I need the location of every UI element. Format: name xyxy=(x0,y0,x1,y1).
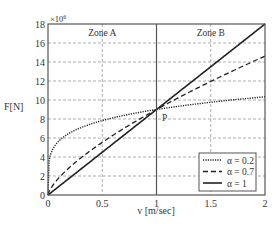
y-tick-label: 14 xyxy=(35,57,45,68)
y-tick-label: 8 xyxy=(40,114,45,125)
y-tick-label: 16 xyxy=(35,38,45,49)
y-tick-label: 10 xyxy=(35,95,45,106)
force-velocity-chart: 02468101214161800.511.52 F[N] v [m/sec] … xyxy=(0,0,280,228)
legend-label: α = 0.2 xyxy=(227,156,254,166)
annotation-zone-b: Zone B xyxy=(197,28,225,38)
y-tick-label: 0 xyxy=(40,190,45,201)
y-tick-label: 6 xyxy=(40,133,45,144)
legend: α = 0.2α = 0.7α = 1 xyxy=(199,153,256,191)
legend-label: α = 1 xyxy=(227,179,247,189)
annotation-p: P xyxy=(162,113,167,123)
y-tick-label: 4 xyxy=(40,152,45,163)
x-axis-label: v [m/sec] xyxy=(137,205,175,216)
y-tick-label: 18 xyxy=(35,19,45,30)
y-multiplier: ×106 xyxy=(50,14,66,24)
x-tick-label: 0.5 xyxy=(96,198,109,209)
chart-canvas: 02468101214161800.511.52 F[N] v [m/sec] … xyxy=(0,0,280,228)
x-tick-label: 2 xyxy=(263,198,268,209)
y-tick-label: 12 xyxy=(35,76,45,87)
y-tick-label: 2 xyxy=(40,171,45,182)
y-axis-label: F[N] xyxy=(4,101,23,112)
x-tick-label: 1.5 xyxy=(205,198,218,209)
annotation-zone-a: Zone A xyxy=(88,28,116,38)
x-tick-label: 0 xyxy=(46,198,51,209)
legend-label: α = 0.7 xyxy=(227,167,254,177)
